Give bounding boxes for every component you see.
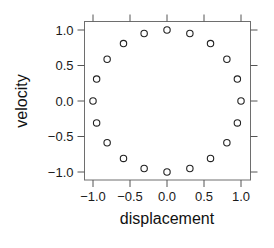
data-point (234, 76, 240, 82)
data-point (104, 140, 110, 146)
y-tick-label: 0.5 (55, 58, 73, 73)
data-point (164, 169, 170, 175)
x-tick-label: −1.0 (80, 189, 106, 204)
data-point (120, 155, 126, 161)
data-points (90, 27, 244, 175)
data-point (187, 30, 193, 36)
scatter-chart: −1.0−0.50.00.51.0−1.0−0.50.00.51.0 displ… (0, 0, 274, 248)
plot-panel (85, 22, 251, 181)
data-point (234, 120, 240, 126)
y-tick-label: −0.5 (48, 129, 74, 144)
data-point (90, 98, 96, 104)
data-point (93, 76, 99, 82)
y-axis-title: velocity (13, 74, 30, 127)
x-tick-label: 1.0 (232, 189, 250, 204)
data-point (164, 27, 170, 33)
axis-ticks (78, 15, 258, 188)
x-tick-label: 0.5 (195, 189, 213, 204)
data-point (104, 56, 110, 62)
data-point (120, 40, 126, 46)
data-point (238, 98, 244, 104)
data-point (93, 120, 99, 126)
y-tick-label: 1.0 (55, 23, 73, 38)
y-tick-label: 0.0 (55, 94, 73, 109)
y-tick-label: −1.0 (48, 165, 74, 180)
x-tick-label: −0.5 (117, 189, 143, 204)
data-point (224, 140, 230, 146)
tick-labels: −1.0−0.50.00.51.0−1.0−0.50.00.51.0 (48, 23, 250, 205)
x-axis-title: displacement (120, 210, 215, 227)
x-tick-label: 0.0 (158, 189, 176, 204)
data-point (187, 165, 193, 171)
data-point (207, 40, 213, 46)
data-point (141, 165, 147, 171)
data-point (207, 155, 213, 161)
data-point (224, 56, 230, 62)
data-point (141, 30, 147, 36)
